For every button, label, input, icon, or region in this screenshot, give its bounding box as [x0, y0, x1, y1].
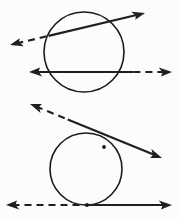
upper-diagonal-secant-line: [10, 12, 145, 46]
lower-diagonal-tangent-line: [30, 104, 162, 158]
lower-diagonal-dashed-segment: [36, 106, 70, 120]
lower-circle: [50, 133, 122, 205]
lower-diagonal-solid-segment: [68, 119, 156, 155]
upper-circle: [44, 12, 124, 92]
geometry-canvas: [0, 0, 179, 219]
lower-horizontal-tangent-line: [6, 201, 172, 210]
upper-panel: [10, 12, 172, 92]
diagonal-tangent-point: [102, 145, 106, 149]
lower-panel: [6, 104, 172, 209]
horizontal-tangent-point: [85, 203, 89, 207]
geometry-figure: [0, 0, 179, 219]
